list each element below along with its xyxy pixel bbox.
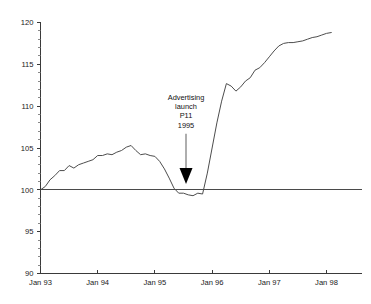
y-axis-tick-label: 120 (21, 18, 34, 27)
x-axis-tick-label: Jan 97 (258, 278, 281, 287)
x-axis-tick-label: Jan 96 (201, 278, 224, 287)
annotation-text-line: Advertising (168, 93, 205, 102)
x-axis-tick-label: Jan 94 (86, 278, 109, 287)
x-axis-tick-label: Jan 95 (143, 278, 166, 287)
annotation-arrow-head-icon (180, 168, 193, 184)
annotation-text-line: launch (175, 102, 197, 111)
annotation-text-line: 1995 (178, 121, 194, 130)
y-axis-tick-label: 110 (21, 102, 33, 111)
y-axis-tick-label: 105 (21, 144, 34, 153)
y-axis-tick-label: 95 (25, 227, 33, 236)
y-axis-tick-label: 100 (21, 186, 34, 195)
y-axis-tick-label: 115 (21, 60, 33, 69)
x-axis-tick-label: Jan 98 (315, 278, 338, 287)
line-chart: 9095100105110115120Jan 93Jan 94Jan 95Jan… (0, 0, 371, 304)
x-axis-tick-label: Jan 93 (29, 278, 52, 287)
annotation-text-line: P11 (180, 111, 193, 120)
chart-container: 9095100105110115120Jan 93Jan 94Jan 95Jan… (0, 0, 371, 304)
